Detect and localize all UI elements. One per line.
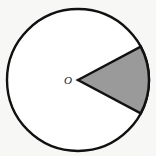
center-point-label: O: [64, 74, 72, 86]
circle-sector-diagram: O: [0, 0, 156, 156]
geometry-figure: O: [0, 0, 156, 156]
center-point-dot: [77, 79, 80, 82]
